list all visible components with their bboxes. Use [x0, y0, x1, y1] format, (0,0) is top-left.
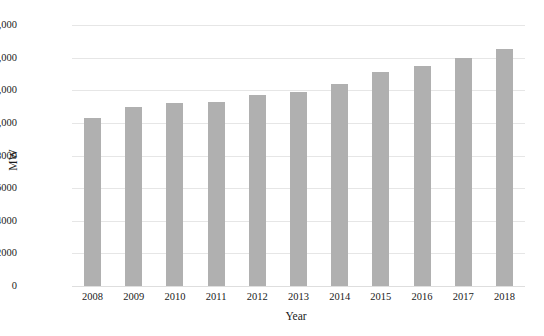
bar-2015[interactable]: [372, 72, 389, 286]
x-tick-label: 2016: [399, 291, 445, 302]
bar-2011[interactable]: [208, 102, 225, 286]
x-axis-title: Year: [0, 310, 544, 322]
x-tick-label: 2011: [193, 291, 239, 302]
y-tick-label: 4000: [0, 216, 17, 227]
x-tick-label: 2017: [440, 291, 486, 302]
x-axis-title-label: Year: [285, 310, 306, 322]
x-tick-label: 2015: [358, 291, 404, 302]
x-tick-label: 2014: [317, 291, 363, 302]
gridline-0: [72, 286, 525, 287]
y-tick-label: 2000: [0, 248, 17, 259]
x-tick-label: 2018: [481, 291, 527, 302]
bar-2012[interactable]: [249, 95, 266, 286]
bar-2016[interactable]: [414, 66, 431, 286]
bar-chart: MW 0200040006000800010,00020,00014,00016…: [0, 0, 544, 336]
x-tick-label: 2010: [152, 291, 198, 302]
x-tick-label: 2012: [234, 291, 280, 302]
y-tick-label: 6000: [0, 183, 17, 194]
bar-2014[interactable]: [331, 84, 348, 286]
y-tick-label: 10,000: [0, 118, 17, 129]
y-tick-label: 20,000: [0, 85, 17, 96]
bar-2013[interactable]: [290, 92, 307, 286]
bar-2009[interactable]: [125, 107, 142, 286]
bar-2008[interactable]: [84, 118, 101, 286]
bar-2018[interactable]: [496, 49, 513, 286]
y-tick-label: 8000: [0, 151, 17, 162]
bar-2010[interactable]: [166, 103, 183, 286]
x-tick-label: 2013: [276, 291, 322, 302]
y-tick-label: 0: [0, 281, 17, 292]
y-tick-label: 16,000: [0, 20, 17, 31]
plot-area: [72, 25, 525, 286]
bars-layer: [72, 25, 525, 286]
x-tick-label: 2008: [70, 291, 116, 302]
y-tick-label: 14,000: [0, 53, 17, 64]
bar-2017[interactable]: [455, 58, 472, 286]
x-tick-label: 2009: [111, 291, 157, 302]
